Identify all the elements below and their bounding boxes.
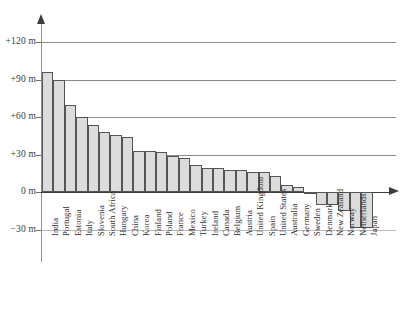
- y-tick-label: 0 m: [0, 187, 36, 197]
- x-axis-label: Ireland: [211, 211, 220, 236]
- y-tick-label-text: +30 m: [3, 150, 36, 160]
- x-axis-label: Austria: [245, 210, 254, 236]
- x-axis-label: Finland: [154, 209, 163, 236]
- x-axis-label: Denmark: [325, 203, 334, 236]
- y-tick-label-text: 0 m: [3, 187, 36, 197]
- x-axis-label: Sweden: [313, 208, 322, 236]
- x-axis-label: South Africa: [108, 191, 117, 236]
- y-tick-label: +30 m: [0, 150, 36, 160]
- x-axis-label: Japan: [370, 216, 379, 236]
- x-axis-label: Poland: [165, 212, 174, 236]
- y-tick-label-text: +90 m: [3, 75, 36, 85]
- x-axis-label: Netherlands: [359, 193, 368, 236]
- x-axis-label: India: [51, 218, 60, 236]
- x-axis-label: China: [131, 215, 140, 236]
- x-axis-label: United States: [279, 189, 288, 236]
- x-axis-category-labels: IndiaPortugalEstoniaItalySloveniaSouth A…: [41, 0, 396, 319]
- x-axis-label: Germany: [302, 203, 311, 236]
- y-tick-label: +60 m: [0, 112, 36, 122]
- x-axis-label: Australia: [290, 204, 299, 236]
- x-axis-label: United Kingdom: [256, 177, 265, 236]
- x-axis-label: Norway: [347, 208, 356, 236]
- x-axis-label: Slovenia: [97, 205, 106, 236]
- x-axis-label: Canada: [222, 210, 231, 236]
- y-tick-label-text: +120 m: [3, 37, 36, 47]
- y-tick-label: +120 m: [0, 37, 36, 47]
- x-axis-label: Korea: [142, 215, 151, 237]
- x-axis-label: Portugal: [62, 206, 71, 236]
- x-axis-label: Mexico: [188, 209, 197, 236]
- x-axis-label: New Zealand: [336, 189, 345, 236]
- x-axis-label: Turkey: [199, 211, 208, 236]
- x-axis-label: Hungary: [119, 205, 128, 236]
- y-tick-label: +90 m: [0, 75, 36, 85]
- y-tick-label-text: +60 m: [3, 112, 36, 122]
- y-tick-label: −30 m: [0, 225, 36, 235]
- bar-chart: +120 m+90 m+60 m+30 m0 m−30 m IndiaPortu…: [0, 0, 405, 319]
- x-axis-label: Estonia: [74, 210, 83, 236]
- x-axis-label: Spain: [268, 216, 277, 236]
- x-axis-label: Belgium: [233, 206, 242, 236]
- y-tick-label-text: −30 m: [3, 225, 36, 235]
- x-axis-label: Italy: [85, 220, 94, 236]
- x-axis-label: France: [176, 212, 185, 236]
